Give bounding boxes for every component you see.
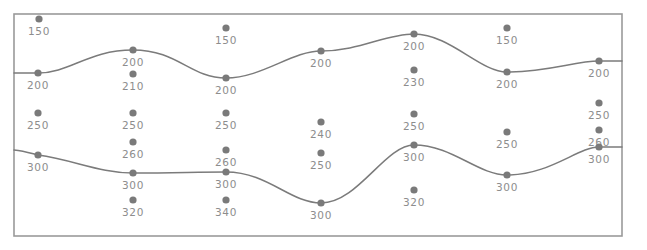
point-marker-dot bbox=[222, 24, 229, 31]
point-value-label: 300 bbox=[122, 179, 144, 191]
point-value-label: 200 bbox=[403, 40, 425, 52]
point-marker-dot bbox=[222, 168, 229, 175]
point-value-label: 200 bbox=[27, 79, 49, 91]
data-points-layer: 1502002002102001502002002301502002002502… bbox=[27, 15, 610, 221]
point-marker-dot bbox=[129, 109, 136, 116]
point-value-label: 300 bbox=[27, 161, 49, 173]
data-point[interactable]: 250 bbox=[122, 109, 144, 131]
point-value-label: 260 bbox=[122, 148, 144, 160]
point-marker-dot bbox=[595, 126, 602, 133]
point-marker-dot bbox=[317, 149, 324, 156]
data-point[interactable]: 320 bbox=[122, 196, 144, 218]
data-point[interactable]: 250 bbox=[310, 149, 332, 171]
point-value-label: 200 bbox=[496, 78, 518, 90]
point-marker-dot bbox=[410, 186, 417, 193]
point-value-label: 200 bbox=[588, 67, 610, 79]
data-point[interactable]: 230 bbox=[403, 66, 425, 88]
data-point[interactable]: 300 bbox=[403, 141, 425, 163]
contour-plot: 1502002002102001502002002301502002002502… bbox=[0, 0, 647, 250]
point-marker-dot bbox=[595, 99, 602, 106]
point-value-label: 250 bbox=[27, 119, 49, 131]
point-marker-dot bbox=[503, 171, 510, 178]
data-point[interactable]: 150 bbox=[215, 24, 237, 46]
point-value-label: 250 bbox=[588, 109, 610, 121]
contour-200 bbox=[14, 34, 622, 78]
data-point[interactable]: 300 bbox=[27, 151, 49, 173]
point-marker-dot bbox=[222, 109, 229, 116]
point-value-label: 250 bbox=[122, 119, 144, 131]
point-marker-dot bbox=[129, 196, 136, 203]
point-marker-dot bbox=[222, 74, 229, 81]
point-marker-dot bbox=[503, 128, 510, 135]
point-value-label: 260 bbox=[215, 156, 237, 168]
point-marker-dot bbox=[595, 57, 602, 64]
point-value-label: 200 bbox=[215, 84, 237, 96]
point-value-label: 250 bbox=[215, 119, 237, 131]
point-value-label: 300 bbox=[496, 181, 518, 193]
point-marker-dot bbox=[34, 69, 41, 76]
data-point[interactable]: 210 bbox=[122, 70, 144, 92]
data-point[interactable]: 340 bbox=[215, 196, 237, 218]
point-value-label: 230 bbox=[403, 76, 425, 88]
data-point[interactable]: 250 bbox=[403, 110, 425, 132]
point-marker-dot bbox=[129, 70, 136, 77]
point-marker-dot bbox=[222, 146, 229, 153]
point-value-label: 340 bbox=[215, 206, 237, 218]
point-marker-dot bbox=[410, 66, 417, 73]
point-value-label: 150 bbox=[496, 34, 518, 46]
point-marker-dot bbox=[410, 30, 417, 37]
point-value-label: 300 bbox=[310, 209, 332, 221]
point-marker-dot bbox=[222, 196, 229, 203]
point-value-label: 210 bbox=[122, 80, 144, 92]
point-value-label: 300 bbox=[215, 178, 237, 190]
point-value-label: 300 bbox=[588, 153, 610, 165]
figure-canvas: 1502002002102001502002002301502002002502… bbox=[0, 0, 647, 250]
data-point[interactable]: 320 bbox=[403, 186, 425, 208]
point-value-label: 250 bbox=[403, 120, 425, 132]
point-marker-dot bbox=[34, 151, 41, 158]
point-marker-dot bbox=[317, 199, 324, 206]
point-value-label: 150 bbox=[28, 25, 50, 37]
point-value-label: 200 bbox=[310, 57, 332, 69]
point-marker-dot bbox=[129, 169, 136, 176]
data-point[interactable]: 150 bbox=[28, 15, 50, 37]
data-point[interactable]: 250 bbox=[496, 128, 518, 150]
data-point[interactable]: 240 bbox=[310, 118, 332, 140]
point-marker-dot bbox=[129, 46, 136, 53]
point-value-label: 250 bbox=[310, 159, 332, 171]
data-point[interactable]: 250 bbox=[588, 99, 610, 121]
point-value-label: 240 bbox=[310, 128, 332, 140]
point-value-label: 320 bbox=[403, 196, 425, 208]
data-point[interactable]: 250 bbox=[27, 109, 49, 131]
data-point[interactable]: 260 bbox=[215, 146, 237, 168]
point-marker-dot bbox=[317, 47, 324, 54]
point-marker-dot bbox=[595, 143, 602, 150]
point-marker-dot bbox=[129, 138, 136, 145]
point-value-label: 300 bbox=[403, 151, 425, 163]
point-marker-dot bbox=[34, 109, 41, 116]
data-point[interactable]: 200 bbox=[403, 30, 425, 52]
point-marker-dot bbox=[410, 141, 417, 148]
point-value-label: 150 bbox=[215, 34, 237, 46]
point-value-label: 200 bbox=[122, 56, 144, 68]
point-marker-dot bbox=[503, 24, 510, 31]
point-marker-dot bbox=[35, 15, 42, 22]
point-value-label: 320 bbox=[122, 206, 144, 218]
point-marker-dot bbox=[410, 110, 417, 117]
data-point[interactable]: 260 bbox=[122, 138, 144, 160]
point-marker-dot bbox=[317, 118, 324, 125]
point-marker-dot bbox=[503, 68, 510, 75]
data-point[interactable]: 150 bbox=[496, 24, 518, 46]
data-point[interactable]: 250 bbox=[215, 109, 237, 131]
point-value-label: 250 bbox=[496, 138, 518, 150]
